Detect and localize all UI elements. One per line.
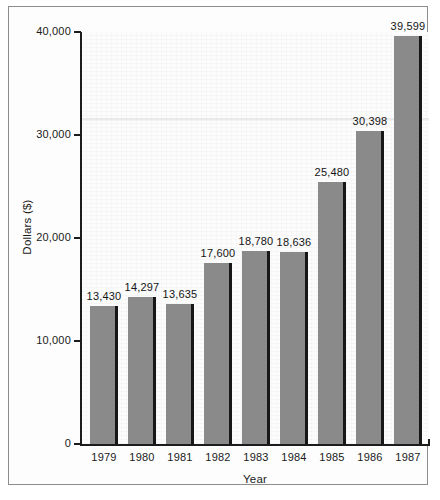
bar-slot: 18,636 [275, 252, 313, 444]
bar-chart-figure: 010,00020,00030,00040,000 13,43014,29713… [0, 0, 440, 500]
bar [166, 304, 194, 444]
bar-slot: 25,480 [313, 182, 351, 444]
x-axis-title: Year [81, 473, 429, 485]
bar [318, 182, 346, 444]
bar-slot: 13,635 [161, 304, 199, 444]
y-axis-tick-label-text: 0 [9, 437, 71, 449]
bar-slot: 39,599 [389, 36, 427, 444]
y-axis-tick-label-text: 10,000 [9, 334, 71, 346]
y-axis-tick [74, 134, 81, 136]
bar-slot: 14,297 [123, 297, 161, 444]
bar [242, 251, 270, 444]
y-axis-tick-label: 0 [9, 437, 71, 451]
y-axis-tick-label: 30,000 [9, 128, 71, 142]
y-axis-tick [74, 31, 81, 33]
y-axis-tick-label: 20,000 [9, 231, 71, 245]
bar [280, 252, 308, 444]
x-axis-end-tick [428, 439, 430, 446]
y-axis-tick [74, 443, 81, 445]
y-axis-tick-label: 40,000 [9, 25, 71, 39]
bar-slot: 17,600 [199, 263, 237, 444]
y-axis-tick-label: 10,000 [9, 334, 71, 348]
x-axis-line [80, 444, 430, 446]
bar-value-label: 39,599 [380, 20, 436, 32]
bar [90, 306, 118, 444]
bar-slot: 13,430 [85, 306, 123, 444]
x-axis-tick-label: 1987 [386, 451, 430, 463]
y-axis-tick [74, 237, 81, 239]
y-axis-tick-label-text: 20,000 [9, 231, 71, 243]
y-axis-tick [74, 340, 81, 342]
chart-outer-frame: 010,00020,00030,00040,000 13,43014,29713… [8, 6, 428, 485]
y-axis-tick-label-text: 30,000 [9, 128, 71, 140]
bar-slot: 18,780 [237, 251, 275, 444]
bar-slot: 30,398 [351, 131, 389, 444]
bar [356, 131, 384, 444]
bar [128, 297, 156, 444]
y-axis-tick-label-text: 40,000 [9, 25, 71, 37]
bar [204, 263, 232, 444]
y-axis-title: Dollars ($) [21, 157, 33, 297]
bar [394, 36, 422, 444]
